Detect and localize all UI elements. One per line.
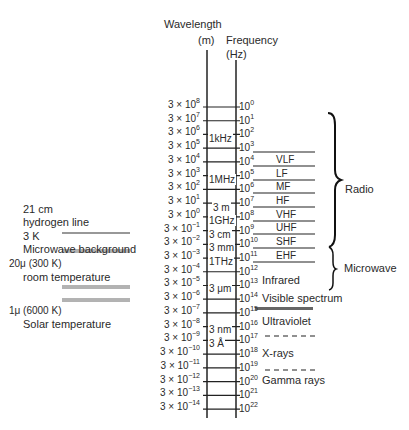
wavelength-tick-label: 3 × 100 [128, 209, 200, 220]
wavelength-tick-label: 3 × 10−11 [128, 360, 200, 371]
group-radio: Radio [345, 183, 374, 195]
band-ehf: EHF [276, 250, 296, 261]
frequency-mantissa: 10 [239, 252, 250, 263]
frequency-tick-label: 106 [239, 183, 254, 194]
wavelength-exponent: 0 [196, 207, 200, 214]
wavelength-exponent: 3 [196, 166, 200, 173]
frequency-mantissa: 10 [239, 376, 250, 387]
band-hf: HF [276, 195, 289, 206]
wavelength-exponent: −8 [192, 317, 200, 324]
note-hydrogen-1: 21 cm [23, 203, 53, 215]
wavelength-tick-label: 3 × 10−3 [128, 250, 200, 261]
frequency-exponent: 2 [250, 126, 254, 133]
frequency-mantissa: 10 [239, 211, 250, 222]
frequency-mantissa: 10 [239, 115, 250, 126]
wavelength-exponent: −9 [192, 330, 200, 337]
frequency-exponent: 6 [250, 181, 254, 188]
wavelength-unit: (m) [198, 34, 215, 46]
frequency-exponent: 13 [250, 277, 258, 284]
wavelength-mantissa: 3 × 10 [168, 181, 196, 192]
wavelength-mantissa: 3 × 10 [160, 387, 188, 398]
frequency-exponent: 5 [250, 168, 254, 175]
wavelength-tick-label: 3 × 10−8 [128, 319, 200, 330]
frequency-tick-label: 103 [239, 142, 254, 153]
frequency-exponent: 7 [250, 195, 254, 202]
frequency-exponent: 4 [250, 154, 254, 161]
inner-label-3a: 3 Å [208, 338, 225, 349]
wavelength-tick-label: 3 × 102 [128, 181, 200, 192]
frequency-mantissa: 10 [239, 389, 250, 400]
frequency-exponent: 1 [250, 113, 254, 120]
wavelength-tick-label: 3 × 10−14 [128, 401, 200, 412]
frequency-mantissa: 10 [239, 279, 250, 290]
wavelength-tick-label: 3 × 10−10 [128, 346, 200, 357]
frequency-exponent: 14 [250, 291, 258, 298]
frequency-mantissa: 10 [239, 225, 250, 236]
band-mf: MF [276, 181, 290, 192]
frequency-exponent: 16 [250, 319, 258, 326]
frequency-mantissa: 10 [239, 321, 250, 332]
wavelength-tick-label: 3 × 10−9 [128, 332, 200, 343]
wavelength-tick-label: 3 × 10−6 [128, 291, 200, 302]
frequency-exponent: 8 [250, 209, 254, 216]
frequency-mantissa: 10 [239, 348, 250, 359]
frequency-tick-label: 105 [239, 170, 254, 181]
wavelength-mantissa: 3 × 10 [164, 291, 192, 302]
wavelength-tick-label: 3 × 106 [128, 126, 200, 137]
frequency-exponent: 21 [250, 387, 258, 394]
wavelength-exponent: 7 [196, 111, 200, 118]
frequency-tick-label: 104 [239, 156, 254, 167]
band-vhf: VHF [276, 209, 296, 220]
wavelength-exponent: −1 [192, 221, 200, 228]
frequency-tick-label: 1011 [239, 252, 257, 263]
band-uhf: UHF [276, 222, 297, 233]
wavelength-mantissa: 3 × 10 [168, 126, 196, 137]
frequency-tick-label: 101 [239, 115, 254, 126]
frequency-exponent: 15 [250, 305, 258, 312]
wavelength-tick-label: 3 × 107 [128, 113, 200, 124]
wavelength-tick-label: 3 × 10−5 [128, 277, 200, 288]
frequency-tick-label: 1015 [239, 307, 258, 318]
frequency-tick-label: 1018 [239, 348, 258, 359]
wavelength-mantissa: 3 × 10 [161, 360, 189, 371]
wavelength-exponent: −4 [192, 262, 200, 269]
frequency-mantissa: 10 [239, 170, 250, 181]
inner-label-1thz: 1THz [208, 256, 234, 267]
frequency-exponent: 19 [250, 360, 258, 367]
wavelength-mantissa: 3 × 10 [160, 401, 188, 412]
note-hydrogen-2: hydrogen line [23, 216, 89, 228]
frequency-exponent: 12 [250, 264, 258, 271]
frequency-exponent: 11 [250, 250, 257, 257]
frequency-mantissa: 10 [239, 362, 250, 373]
frequency-tick-label: 1014 [239, 293, 258, 304]
inner-label-1mhz: 1MHz [208, 174, 236, 185]
frequency-mantissa: 10 [239, 238, 250, 249]
frequency-mantissa: 10 [239, 142, 250, 153]
wavelength-exponent: −10 [188, 344, 200, 351]
wavelength-tick-label: 3 × 10−12 [128, 374, 200, 385]
frequency-tick-label: 1019 [239, 362, 258, 373]
frequency-exponent: 22 [250, 401, 258, 408]
wavelength-mantissa: 3 × 10 [164, 332, 192, 343]
inner-label-1khz: 1kHz [208, 133, 233, 144]
wavelength-exponent: −6 [192, 289, 200, 296]
wavelength-exponent: 2 [196, 179, 200, 186]
wavelength-exponent: −13 [188, 385, 200, 392]
frequency-tick-label: 108 [239, 211, 254, 222]
wavelength-mantissa: 3 × 10 [168, 99, 196, 110]
wavelength-mantissa: 3 × 10 [164, 319, 192, 330]
frequency-tick-label: 1010 [239, 238, 258, 249]
inner-label-3um: 3 μm [208, 283, 232, 294]
frequency-exponent: 10 [250, 236, 258, 243]
wavelength-mantissa: 3 × 10 [164, 250, 192, 261]
frequency-tick-label: 102 [239, 128, 254, 139]
region-gamma: Gamma rays [262, 374, 325, 386]
frequency-header: Frequency [226, 34, 278, 46]
note-room-2: room temperature [23, 271, 110, 283]
wavelength-exponent: 4 [196, 152, 200, 159]
wavelength-header: Wavelength [164, 18, 222, 30]
wavelength-tick-label: 3 × 10−1 [128, 223, 200, 234]
band-lf: LF [276, 168, 288, 179]
inner-label-3m: 3 m [212, 202, 231, 213]
wavelength-mantissa: 3 × 10 [168, 113, 196, 124]
